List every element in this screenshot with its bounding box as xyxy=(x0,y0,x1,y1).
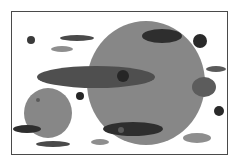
center-dot xyxy=(117,70,129,82)
mid-left-dot xyxy=(76,92,84,100)
top-right-dot xyxy=(193,34,207,48)
lower-left-dark-ellipse xyxy=(13,125,41,133)
top-left-dash-dark xyxy=(60,35,94,41)
long-ellipse xyxy=(37,66,155,88)
right-lower-dot xyxy=(214,106,224,116)
bottom-dark-ellipse xyxy=(103,122,163,136)
top-left-dot xyxy=(27,36,35,44)
bottom-right-ellipse xyxy=(183,133,211,143)
top-dark-ellipse xyxy=(142,29,182,43)
top-left-dash-light xyxy=(51,46,73,52)
bottom-dark-ellipse-dot xyxy=(118,127,124,133)
right-dash xyxy=(206,66,226,72)
shapes-canvas xyxy=(0,0,238,161)
bottom-mid-ellipse xyxy=(91,139,109,145)
right-mid-ellipse xyxy=(192,77,216,97)
small-circle-dot xyxy=(36,98,40,102)
bottom-left-ellipse xyxy=(36,141,70,147)
